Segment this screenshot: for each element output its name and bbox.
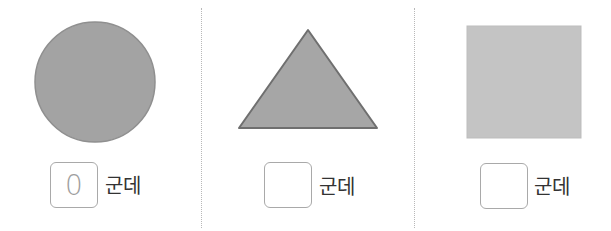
answer-box-square[interactable] [480,163,528,209]
unit-label-circle: 군데 [105,176,141,196]
answer-box-circle[interactable]: 0 [50,162,98,208]
unit-label-triangle: 군데 [319,177,355,197]
divider-1 [201,8,202,228]
answer-box-triangle[interactable] [264,162,312,208]
square-shape [466,25,582,139]
answer-value-circle: 0 [65,169,83,202]
circle-shape [33,20,157,144]
unit-label-square: 군데 [534,177,570,197]
triangle-shape [236,27,380,131]
divider-2 [414,8,415,228]
